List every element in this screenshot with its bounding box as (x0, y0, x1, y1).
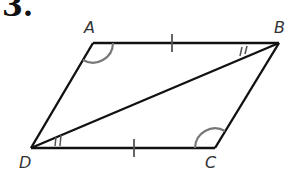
double-tick-b-2 (245, 46, 247, 54)
double-tick-b-1 (240, 47, 242, 56)
side-bc (215, 43, 279, 148)
vertex-label-c: C (205, 153, 216, 172)
vertex-label-d: D (19, 153, 31, 172)
diagonal-db (31, 43, 279, 148)
side-da (31, 43, 93, 148)
double-tick-d-2 (60, 135, 61, 146)
double-tick-d-1 (55, 137, 56, 146)
vertex-label-a: A (84, 18, 95, 37)
parallelogram-figure (0, 0, 286, 175)
diagram: 3. A B C D (0, 0, 286, 175)
vertex-label-b: B (274, 18, 285, 37)
